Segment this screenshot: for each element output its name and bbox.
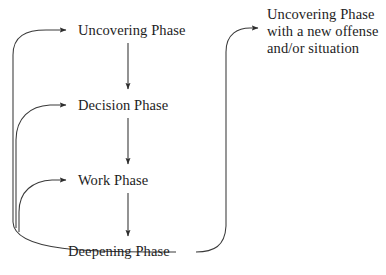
edge-deepening-to-uncovering (13, 30, 176, 252)
edge-deepening-to-outcome (196, 28, 258, 252)
node-work-phase[interactable]: Work Phase (78, 172, 148, 188)
node-decision-phase[interactable]: Decision Phase (78, 97, 168, 113)
outcome-line-3: and/or situation (267, 40, 378, 57)
edge-deepening-to-work (19, 180, 66, 232)
edge-deepening-to-decision (16, 105, 66, 228)
node-uncovering-phase[interactable]: Uncovering Phase (78, 22, 186, 38)
node-deepening-phase[interactable]: Deepening Phase (68, 243, 170, 259)
diagram-canvas: Uncovering Phase Decision Phase Work Pha… (0, 0, 386, 275)
node-outcome-uncovering-new-offense[interactable]: Uncovering Phase with a new offense and/… (267, 6, 378, 57)
outcome-line-1: Uncovering Phase (267, 6, 378, 23)
outcome-line-2: with a new offense (267, 23, 378, 40)
